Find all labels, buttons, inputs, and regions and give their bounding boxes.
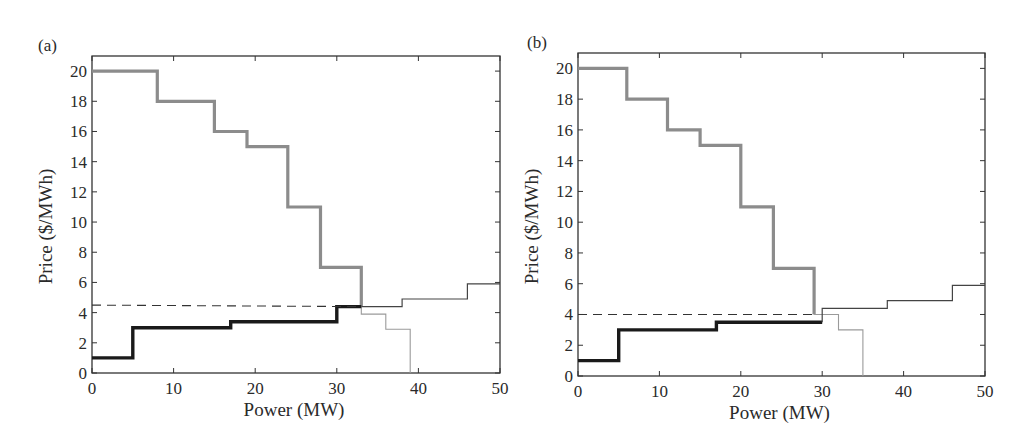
series-supply-offer-rejected xyxy=(361,284,500,307)
chart-panel-a: 0102030405002468101214161820Power (MW)Pr… xyxy=(35,36,509,421)
y-tick-label: 16 xyxy=(556,121,573,140)
chart-panel-b: 0102030405002468101214161820Power (MW)Pr… xyxy=(521,33,994,424)
y-tick-label: 20 xyxy=(70,62,87,81)
x-tick-label: 20 xyxy=(732,382,749,401)
panel-label: (b) xyxy=(527,33,547,52)
x-tick-label: 50 xyxy=(977,382,994,401)
y-tick-label: 12 xyxy=(556,182,573,201)
y-tick-label: 4 xyxy=(565,305,574,324)
x-tick-label: 0 xyxy=(88,379,97,398)
y-tick-label: 20 xyxy=(556,59,573,78)
x-tick-label: 40 xyxy=(410,379,427,398)
y-tick-label: 14 xyxy=(70,153,88,172)
x-tick-label: 10 xyxy=(165,379,182,398)
x-tick-label: 30 xyxy=(814,382,831,401)
y-tick-label: 10 xyxy=(70,213,87,232)
plot-frame xyxy=(578,53,985,376)
y-tick-label: 8 xyxy=(79,243,88,262)
plot-frame xyxy=(92,56,500,373)
series-clearing-price xyxy=(92,305,361,307)
x-tick-label: 50 xyxy=(492,379,509,398)
y-tick-label: 2 xyxy=(79,334,88,353)
y-tick-label: 0 xyxy=(565,367,574,386)
series-supply-offer-accepted xyxy=(578,322,822,360)
y-tick-label: 0 xyxy=(79,364,88,383)
x-tick-label: 30 xyxy=(328,379,345,398)
series-demand-bid-accepted xyxy=(578,68,814,314)
x-tick-label: 0 xyxy=(574,382,583,401)
panel-label: (a) xyxy=(38,36,57,55)
x-tick-label: 10 xyxy=(651,382,668,401)
series-demand-bid-accepted xyxy=(92,71,361,307)
y-axis-title: Price ($/MWh) xyxy=(521,169,543,285)
y-tick-label: 18 xyxy=(556,90,573,109)
y-tick-label: 8 xyxy=(565,244,574,263)
y-tick-label: 16 xyxy=(70,122,87,141)
y-tick-label: 2 xyxy=(565,336,574,355)
x-axis-title: Power (MW) xyxy=(244,399,345,421)
x-tick-label: 20 xyxy=(247,379,264,398)
y-tick-label: 18 xyxy=(70,92,87,111)
x-axis-title: Power (MW) xyxy=(729,402,830,424)
series-supply-offer-rejected xyxy=(822,285,985,322)
figure: 0102030405002468101214161820Power (MW)Pr… xyxy=(0,0,1026,447)
y-tick-label: 6 xyxy=(565,275,574,294)
y-tick-label: 4 xyxy=(79,304,88,323)
x-tick-label: 40 xyxy=(895,382,912,401)
y-tick-label: 14 xyxy=(556,152,574,171)
y-tick-label: 10 xyxy=(556,213,573,232)
y-tick-label: 6 xyxy=(79,273,88,292)
series-demand-bid-rejected xyxy=(361,307,410,373)
y-tick-label: 12 xyxy=(70,183,87,202)
series-supply-offer-accepted xyxy=(92,307,361,358)
y-axis-title: Price ($/MWh) xyxy=(35,169,57,285)
